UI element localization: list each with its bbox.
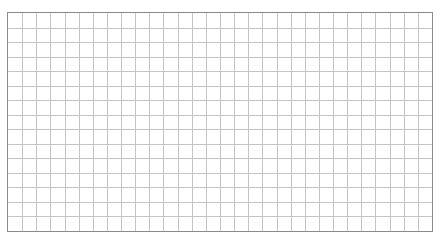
grid-lines xyxy=(8,13,432,231)
grid-paper xyxy=(7,12,433,232)
